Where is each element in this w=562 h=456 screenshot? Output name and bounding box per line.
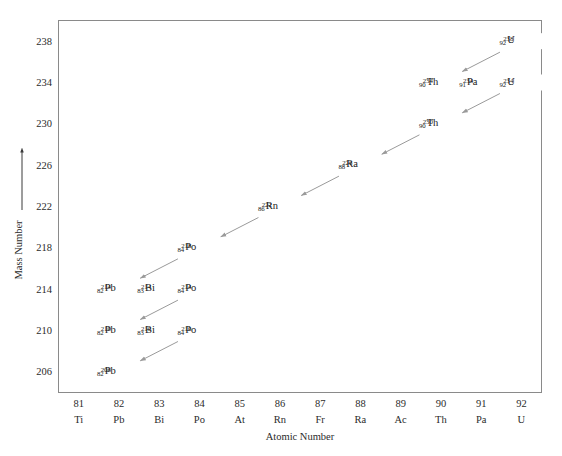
nuclide-text: 21084Po — [177, 324, 196, 336]
nuclide-label-Th230: 23090Th — [417, 116, 465, 132]
nuclide-label-Rn222: 22286Rn — [256, 199, 304, 215]
atomic-number-subscript: 84 — [177, 287, 184, 294]
x-tick-number-86: 86 — [275, 398, 286, 409]
element-symbol: Bi — [145, 282, 155, 293]
nuclide-text: 21482Pb — [97, 282, 116, 294]
y-tick-238: 238 — [36, 36, 52, 47]
atomic-number-subscript: 88 — [338, 163, 345, 170]
nuclide-text: 21484Po — [177, 282, 196, 294]
x-tick-symbol-Po: Po — [194, 414, 205, 425]
x-tick-number-89: 89 — [395, 398, 406, 409]
x-tick-number-84: 84 — [194, 398, 205, 409]
nuclide-label-Ra226: 22688Ra — [336, 157, 384, 173]
element-symbol: Pa — [467, 76, 478, 87]
y-axis-tick-labels: 206210214218222226230234238 — [36, 36, 53, 378]
x-tick-symbol-At: At — [234, 414, 245, 425]
nuclide-label-U234: 23492U — [497, 75, 545, 91]
atomic-number-subscript: 84 — [177, 246, 184, 253]
x-tick-number-82: 82 — [114, 398, 125, 409]
atomic-number-subscript: 82 — [97, 287, 104, 294]
element-symbol: Po — [185, 324, 196, 335]
element-symbol: Pb — [105, 365, 116, 376]
element-symbol: Rn — [266, 200, 279, 211]
nuclide-label-U238: 23892U — [497, 33, 545, 49]
nuclide-text: 22688Ra — [338, 158, 358, 170]
x-axis-tick-labels: 81Ti82Pb83Bi84Po85At86Rn87Fr88Ra89Ac90Th… — [73, 398, 526, 425]
element-symbol: Th — [427, 117, 439, 128]
nuclide-label-Po210: 21084Po — [175, 323, 223, 339]
x-tick-number-87: 87 — [315, 398, 326, 409]
x-tick-number-83: 83 — [154, 398, 165, 409]
atomic-number-subscript: 83 — [137, 287, 144, 294]
element-symbol: U — [507, 34, 515, 45]
nuclide-text: 22286Rn — [258, 200, 279, 212]
y-tick-234: 234 — [36, 77, 53, 88]
atomic-number-subscript: 91 — [459, 81, 466, 88]
element-symbol: Po — [185, 241, 196, 252]
element-symbol: Po — [185, 282, 196, 293]
x-tick-symbol-Ac: Ac — [395, 414, 408, 425]
y-axis-title: Mass Number — [13, 220, 24, 280]
nuclide-text: 21884Po — [177, 241, 196, 253]
x-tick-symbol-U: U — [518, 414, 526, 425]
x-tick-symbol-Rn: Rn — [274, 414, 287, 425]
x-tick-symbol-Fr: Fr — [315, 414, 325, 425]
x-tick-number-81: 81 — [73, 398, 84, 409]
x-tick-number-88: 88 — [355, 398, 366, 409]
x-tick-number-91: 91 — [476, 398, 487, 409]
y-tick-206: 206 — [36, 366, 52, 377]
atomic-number-subscript: 92 — [499, 81, 506, 88]
element-symbol: Pb — [105, 324, 116, 335]
y-tick-226: 226 — [36, 160, 52, 171]
element-symbol: Ra — [346, 158, 358, 169]
element-symbol: U — [507, 76, 515, 87]
x-tick-symbol-Ra: Ra — [355, 414, 367, 425]
element-symbol: Bi — [145, 324, 155, 335]
nuclide-text: 21082Pb — [97, 324, 116, 336]
atomic-number-subscript: 90 — [419, 122, 426, 129]
atomic-number-subscript: 82 — [97, 370, 104, 377]
nuclide-text: 23490Th — [419, 76, 439, 88]
nuclide-text: 23090Th — [419, 117, 439, 129]
nuclide-label-Po214: 21484Po — [175, 281, 223, 297]
x-tick-number-92: 92 — [516, 398, 527, 409]
y-tick-210: 210 — [36, 325, 52, 336]
atomic-number-subscript: 86 — [258, 205, 265, 212]
x-tick-symbol-Th: Th — [435, 414, 447, 425]
atomic-number-subscript: 83 — [137, 329, 144, 336]
y-tick-230: 230 — [36, 118, 52, 129]
nuclide-label-Po218: 21884Po — [175, 240, 223, 256]
y-tick-222: 222 — [36, 201, 52, 212]
atomic-number-subscript: 90 — [419, 81, 426, 88]
x-tick-number-85: 85 — [234, 398, 245, 409]
decay-chain-figure: 23892U23490Th23491Pa23492U23090Th22688Ra… — [0, 0, 562, 456]
uranium-decay-series-chart: 23892U23490Th23491Pa23492U23090Th22688Ra… — [0, 0, 562, 456]
y-tick-218: 218 — [36, 242, 52, 253]
nuclide-text: 20682Pb — [97, 365, 116, 377]
x-tick-symbol-Ti: Ti — [74, 414, 83, 425]
element-symbol: Th — [427, 76, 439, 87]
atomic-number-subscript: 82 — [97, 329, 104, 336]
x-axis-title: Atomic Number — [266, 431, 335, 442]
atomic-number-subscript: 84 — [177, 329, 184, 336]
x-tick-number-90: 90 — [436, 398, 447, 409]
x-tick-symbol-Bi: Bi — [154, 414, 164, 425]
x-tick-symbol-Pa: Pa — [476, 414, 487, 425]
y-tick-214: 214 — [36, 284, 53, 295]
element-symbol: Pb — [105, 282, 116, 293]
nuclide-label-Pb206: 20682Pb — [95, 364, 143, 380]
x-tick-symbol-Pb: Pb — [113, 414, 124, 425]
atomic-number-subscript: 92 — [499, 39, 506, 46]
